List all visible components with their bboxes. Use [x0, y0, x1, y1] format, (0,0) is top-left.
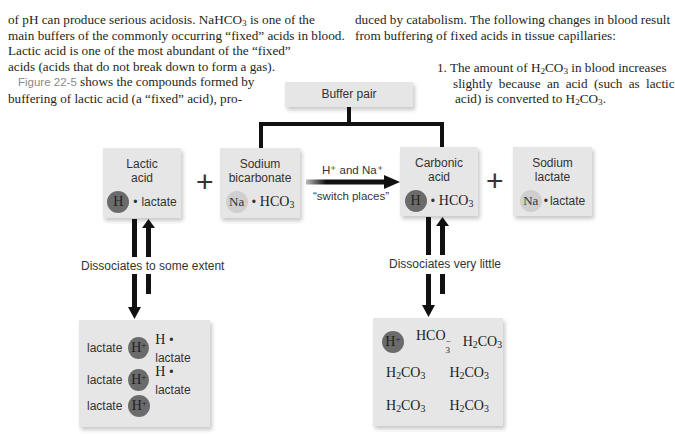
product-row-2: lactate H+ H • lactate [87, 362, 210, 398]
product-row-2: H2CO3 H2CO3 [386, 365, 489, 381]
text-fragment: H [131, 340, 141, 355]
lactic-products-box: lactate H+ H • lactate lactate H+ H • la… [79, 320, 210, 427]
text-fragment: CO [545, 60, 563, 75]
superscript: + [395, 333, 400, 343]
hydrogen-circle-icon: H [405, 190, 427, 212]
text-fragment: CO [478, 334, 497, 349]
text-fragment: . [603, 91, 606, 106]
lactic-acid-formula: H • lactate [103, 191, 181, 213]
product-row-1: H+ HCO−3 H2CO3 [382, 328, 502, 355]
right-line-1: duced by catabolism. The following chang… [355, 12, 670, 28]
text-fragment: H [386, 398, 396, 413]
text-fragment: shows the compounds formed by [77, 74, 255, 89]
bracket-right-drop [440, 122, 444, 148]
subscript: 3 [484, 403, 489, 414]
dissociates-very-little-label: Dissociates very little [389, 257, 501, 271]
carbonic-acid-molecule: H2CO3 [449, 365, 488, 381]
hydrogen-circle-icon: H [107, 191, 129, 213]
text-fragment: CO [464, 398, 483, 413]
sodium-bicarbonate-formula: Na • HCO3 [220, 191, 300, 213]
title-line: acid [103, 171, 181, 185]
buffer-pair-text: Buffer pair [321, 87, 376, 101]
product-row-3: lactate H+ [87, 395, 150, 417]
list-item-1: 1. The amount of H2CO3 in blood increase… [437, 60, 675, 107]
bond-dot: • [169, 365, 173, 379]
carbonic-acid-box: Carbonic acid H • HCO3 [400, 147, 478, 216]
sodium-bicarbonate-title: Sodium bicarbonate [220, 157, 300, 185]
right-line-2: from buffering of fixed acids in tissue … [355, 28, 670, 44]
text-fragment: CO [401, 398, 420, 413]
carbonic-acid-title: Carbonic acid [400, 156, 478, 184]
text-fragment: H [449, 398, 459, 413]
text-fragment: of pH can produce serious acidosis. NaHC… [8, 12, 242, 27]
plus-sign-left: + [196, 167, 214, 197]
text-fragment: H [386, 365, 396, 380]
carbonic-acid-molecule: H2CO3 [386, 365, 425, 381]
left-dissociation-arrows-lower [128, 274, 158, 320]
carbonic-acid-formula: H • HCO3 [400, 190, 478, 212]
dissociates-to-some-extent-label: Dissociates to some extent [81, 259, 224, 273]
product-row-3: H2CO3 H2CO3 [386, 398, 489, 414]
text-fragment: lactate [155, 383, 190, 397]
right-dissociation-arrows-upper [422, 217, 452, 255]
text-fragment: in blood increases [568, 60, 667, 75]
sodium-lactate-box: Sodium lactate Na • lactate [513, 147, 592, 216]
superscript: + [141, 372, 146, 382]
arrow-label-bottom: “switch places” [313, 190, 389, 202]
hydrogen-ion-circle-icon: H+ [128, 369, 149, 391]
subscript: 3 [484, 370, 489, 381]
title-line: Sodium [220, 157, 300, 171]
bicarbonate-text: HCO3 [439, 193, 473, 209]
carbonic-products-box: H+ HCO−3 H2CO3 H2CO3 H2CO3 H2CO3 H2CO3 [373, 318, 503, 426]
subscript: 3 [420, 370, 425, 381]
carbonic-acid-molecule: H2CO3 [463, 334, 502, 350]
text-fragment: CO [401, 365, 420, 380]
bracket-left-drop [259, 122, 263, 148]
subscript: 3 [468, 198, 473, 209]
undissociated-lactic-acid: H • lactate [155, 362, 210, 398]
lactate-text: lactate [141, 195, 176, 209]
subscript: 3 [420, 403, 425, 414]
left-line-4: acids (acids that do not break down to f… [8, 59, 345, 75]
bond-dot: • [544, 194, 548, 208]
bicarbonate-ion: HCO−3 [416, 328, 451, 355]
superscript: + [142, 398, 147, 408]
subscript: 3 [446, 346, 451, 355]
bicarbonate-text: HCO3 [260, 194, 294, 210]
text-fragment: H [449, 365, 459, 380]
right-dissociation-arrows-lower [422, 274, 452, 320]
figure-reference-link[interactable]: Figure 22-5 [18, 76, 77, 88]
title-line: lactate [513, 170, 592, 184]
superscript: + [141, 340, 146, 350]
title-line: Carbonic [400, 156, 478, 170]
text-fragment: acid) is converted to H [455, 91, 575, 106]
text-fragment: HCO [260, 194, 290, 209]
lactate-anion: lactate [87, 399, 122, 413]
text-fragment: H [155, 364, 165, 379]
list-item-1-line-1: 1. The amount of H2CO3 in blood increase… [437, 60, 675, 76]
lactate-anion: lactate [87, 373, 122, 387]
text-fragment: H [463, 334, 473, 349]
lactate-text: lactate [550, 194, 585, 208]
bond-dot: • [133, 195, 137, 209]
text-fragment: H [131, 372, 141, 387]
subscript: 3 [289, 199, 294, 210]
list-item-1-line-3: acid) is converted to H2CO3. [437, 91, 675, 107]
buffer-pair-label: Buffer pair [285, 82, 413, 107]
left-line-1: of pH can produce serious acidosis. NaHC… [8, 12, 345, 28]
right-arrow-icon [306, 175, 402, 189]
left-line-3: Lactic acid is one of the most abundant … [8, 43, 345, 59]
text-fragment: is one of the [247, 12, 315, 27]
lactic-acid-title: Lactic acid [103, 157, 181, 185]
text-fragment: H [385, 334, 395, 349]
lactic-acid-box: Lactic acid H • lactate [103, 148, 181, 218]
sodium-bicarbonate-box: Sodium bicarbonate Na • HCO3 [220, 148, 300, 218]
carbonic-acid-molecule: H2CO3 [386, 398, 425, 414]
carbonic-acid-molecule: H2CO3 [449, 398, 488, 414]
hydrogen-ion-circle-icon: H+ [382, 331, 404, 353]
lactate-anion: lactate [87, 341, 122, 355]
plus-sign-right: + [486, 166, 504, 196]
left-dissociation-arrows-upper [128, 219, 158, 257]
text-fragment: CO [580, 91, 598, 106]
bond-dot: • [252, 195, 256, 209]
